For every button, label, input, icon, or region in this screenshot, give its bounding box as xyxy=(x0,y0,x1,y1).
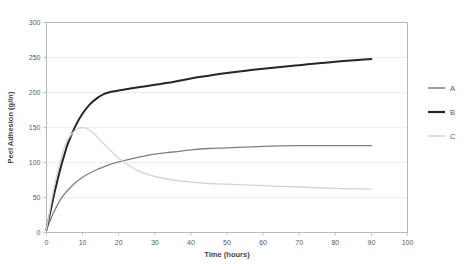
data-series-group xyxy=(47,59,372,230)
x-tick-label: 80 xyxy=(331,239,339,246)
legend-label-c: C xyxy=(450,132,456,141)
x-tick-label: 30 xyxy=(151,239,159,246)
x-tick-label: 10 xyxy=(79,239,87,246)
y-axis-title: Peel Adhesion (g/in) xyxy=(6,91,15,163)
x-tick-label: 0 xyxy=(45,239,49,246)
x-tick-label: 90 xyxy=(368,239,376,246)
y-tick-label: 0 xyxy=(37,229,41,236)
y-tick-label: 250 xyxy=(29,54,41,61)
series-line-b xyxy=(47,59,372,230)
y-tick-label: 100 xyxy=(29,159,41,166)
gridlines-group xyxy=(47,58,408,198)
y-axis-ticks-group: 050100150200250300 xyxy=(29,19,47,236)
x-tick-label: 70 xyxy=(295,239,303,246)
series-line-c xyxy=(47,128,372,230)
legend: ABC xyxy=(428,84,456,141)
y-tick-label: 200 xyxy=(29,89,41,96)
x-tick-label: 50 xyxy=(223,239,231,246)
peel-adhesion-line-chart: 0102030405060708090100 05010015020025030… xyxy=(0,0,470,264)
x-tick-label: 100 xyxy=(402,239,414,246)
x-axis-ticks-group: 0102030405060708090100 xyxy=(45,233,414,246)
y-tick-label: 300 xyxy=(29,19,41,26)
legend-label-b: B xyxy=(450,108,455,117)
y-tick-label: 150 xyxy=(29,124,41,131)
x-tick-label: 40 xyxy=(187,239,195,246)
x-tick-label: 60 xyxy=(259,239,267,246)
x-axis-title: Time (hours) xyxy=(204,250,250,259)
y-tick-label: 50 xyxy=(33,194,41,201)
x-tick-label: 20 xyxy=(115,239,123,246)
chart-container: 0102030405060708090100 05010015020025030… xyxy=(0,0,470,264)
legend-label-a: A xyxy=(450,84,455,93)
